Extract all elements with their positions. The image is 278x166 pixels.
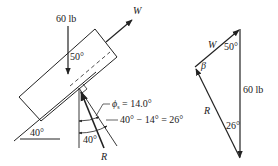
triangle-bottom-angle: 26° bbox=[226, 120, 240, 131]
triangle-beta-label: β bbox=[200, 60, 206, 71]
lower-angle-label: 40° bbox=[83, 134, 97, 145]
angle-difference-label: 40° − 14° = 26° bbox=[120, 114, 183, 125]
r-label: R bbox=[100, 151, 107, 162]
phi-label: ϕs = 14.0° bbox=[112, 98, 152, 110]
triangle-top-angle: 50° bbox=[224, 41, 238, 52]
statics-diagram: 40° 60 lb 50° W R ϕs = 14.0° 40° − 14° =… bbox=[0, 0, 278, 166]
triangle-load-label: 60 lb bbox=[243, 84, 263, 95]
incline-angle-label: 40° bbox=[30, 127, 44, 138]
block-angle-label: 50° bbox=[70, 51, 84, 62]
w-arrow bbox=[106, 20, 132, 42]
diagram-canvas: 40° 60 lb 50° W R ϕs = 14.0° 40° − 14° =… bbox=[0, 0, 278, 166]
incline-plane bbox=[14, 72, 96, 141]
triangle-r-label: R bbox=[203, 105, 210, 116]
load-label: 60 lb bbox=[56, 13, 76, 24]
w-label: W bbox=[133, 5, 143, 16]
triangle-r-vector bbox=[196, 69, 240, 158]
